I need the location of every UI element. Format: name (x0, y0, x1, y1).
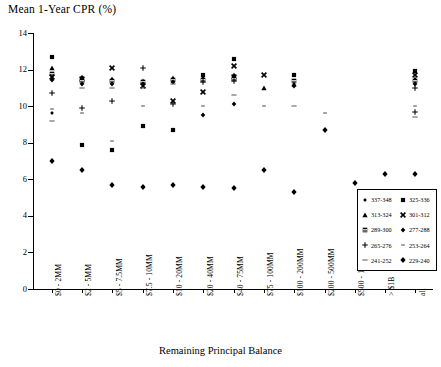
x-axis-tick (355, 289, 356, 293)
data-point (230, 184, 238, 192)
legend-label: 253-264 (409, 242, 430, 249)
data-point (78, 84, 86, 92)
legend-item: 313-324 (359, 207, 397, 222)
data-point (169, 80, 177, 88)
y-axis-tick (28, 216, 33, 217)
data-point (351, 179, 359, 187)
x-axis-title: Remaining Principal Balance (0, 345, 441, 356)
legend-item: 289-300 (359, 222, 397, 237)
data-point (381, 170, 389, 178)
data-point (108, 84, 116, 92)
data-point (78, 109, 86, 117)
y-axis-tick-label-text: 14 (1, 29, 27, 38)
legend-marker-icon (399, 211, 407, 219)
data-point (230, 91, 238, 99)
legend-item: 277-288 (397, 222, 435, 237)
data-point (290, 82, 298, 90)
y-axis-line (33, 33, 34, 290)
data-point (199, 183, 207, 191)
data-point (199, 78, 207, 86)
chart-container: Mean 1-Year CPR (%) 02468101214 $0 - 2MM… (0, 0, 441, 367)
data-point (260, 71, 268, 79)
data-point (108, 137, 116, 145)
y-axis-tick-label-text: 6 (1, 175, 27, 184)
legend-label: 289-300 (371, 226, 392, 233)
y-axis-tick-label-text: 12 (1, 65, 27, 74)
legend-marker-icon (399, 226, 407, 234)
legend-item: 301-312 (397, 207, 435, 222)
legend-item: 241-252 (359, 253, 397, 268)
data-point (199, 88, 207, 96)
data-point (139, 183, 147, 191)
x-axis-tick-label: $100 - 200MM (297, 248, 305, 296)
y-axis-tick (28, 289, 33, 290)
x-axis-tick-label: $0 - 2MM (55, 264, 63, 296)
data-point (411, 84, 419, 92)
x-axis-tick-label: all (419, 288, 427, 296)
x-axis-tick (173, 289, 174, 293)
data-point (230, 77, 238, 85)
chart-title: Mean 1-Year CPR (%) (8, 3, 116, 15)
y-axis-tick-label-text: 8 (1, 138, 27, 147)
legend-marker-icon (361, 241, 369, 249)
legend-marker-icon (399, 196, 407, 204)
legend-label: 337-348 (371, 196, 392, 203)
legend-marker-icon (361, 211, 369, 219)
x-axis-tick (415, 289, 416, 293)
data-point (78, 141, 86, 149)
x-axis-tick (52, 289, 53, 293)
data-point (108, 64, 116, 72)
legend-item: 229-240 (397, 253, 435, 268)
x-axis-tick (82, 289, 83, 293)
legend-label: 229-240 (409, 257, 430, 264)
y-axis-tick (28, 33, 33, 34)
data-point (48, 76, 56, 84)
legend-item: 253-264 (397, 238, 435, 253)
data-point (260, 84, 268, 92)
x-axis-tick (264, 289, 265, 293)
legend-marker-icon (361, 226, 369, 234)
y-axis-tick (28, 143, 33, 144)
data-point (139, 84, 147, 92)
legend-grid: 337-348325-336313-324301-312289-300277-2… (358, 190, 436, 270)
data-point (139, 102, 147, 110)
data-point (230, 62, 238, 70)
legend-label: 325-336 (409, 196, 430, 203)
data-point (108, 181, 116, 189)
y-axis-tick-label-text: 2 (1, 248, 27, 257)
x-axis-tick (385, 289, 386, 293)
data-point (139, 122, 147, 130)
x-axis-tick-label: $40 - 75MM (237, 256, 245, 296)
data-point (169, 126, 177, 134)
legend-marker-icon (399, 241, 407, 249)
legend-label: 301-312 (409, 211, 430, 218)
x-axis-tick-label: $5 - 7.5MM (116, 258, 124, 296)
data-point (139, 64, 147, 72)
data-point (321, 109, 329, 117)
data-point (411, 170, 419, 178)
data-point (108, 146, 116, 154)
data-point (230, 100, 238, 108)
x-axis-tick-label: $75 - 100MM (267, 252, 275, 296)
data-point (48, 89, 56, 97)
data-point (78, 166, 86, 174)
data-point (260, 166, 268, 174)
legend-label: 265-276 (371, 242, 392, 249)
data-point (290, 102, 298, 110)
legend-item: 265-276 (359, 238, 397, 253)
legend-label: 241-252 (371, 257, 392, 264)
x-axis-tick-label: $7.5 - 10MM (146, 254, 154, 296)
x-axis-tick (143, 289, 144, 293)
legend-item: 337-348 (359, 192, 397, 207)
x-axis-tick-label: $200 - 500MM (328, 248, 336, 296)
data-point (411, 113, 419, 121)
x-axis-tick-label: $20 - 40MM (207, 256, 215, 296)
y-axis-tick (28, 179, 33, 180)
y-axis-tick (28, 70, 33, 71)
data-point (321, 126, 329, 134)
data-point (48, 53, 56, 61)
y-axis-tick (28, 252, 33, 253)
x-axis-tick (234, 289, 235, 293)
data-point (199, 111, 207, 119)
x-axis-tick (203, 289, 204, 293)
